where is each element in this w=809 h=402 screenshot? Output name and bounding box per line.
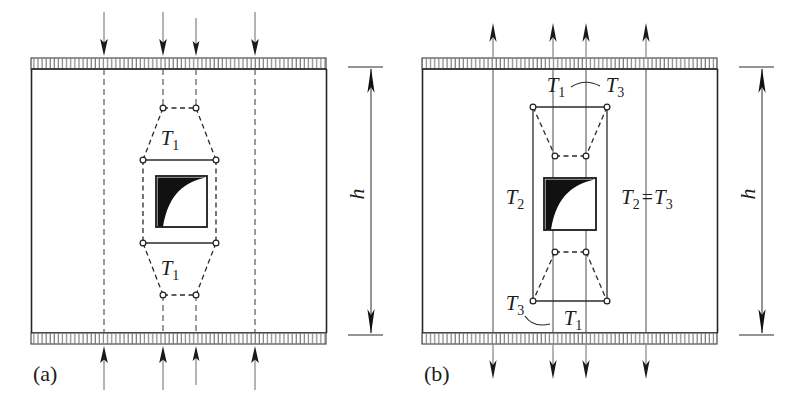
- svg-text:T1: T1: [161, 126, 180, 153]
- load-arrow-bottom-4: [251, 346, 259, 390]
- tie-label-subscript: 2: [517, 197, 524, 212]
- load-arrow-bottom-2: [549, 345, 556, 379]
- tie-label-subscript: 1: [575, 318, 582, 333]
- load-arrow-bottom-3: [582, 345, 589, 379]
- load-arrow-bottom-1: [100, 346, 108, 390]
- figure-container: T1 T1 h (a): [0, 0, 809, 402]
- dimension-h-b: h: [735, 67, 774, 335]
- tie-label-T2-equals-T3-b: T2=T3: [621, 185, 673, 212]
- tie-label-T3-top-b: T3: [606, 73, 625, 100]
- bearing-band-bottom-b: [422, 333, 717, 344]
- tie-label-T1-top-b: T1: [547, 73, 566, 100]
- load-arrow-top-3: [193, 18, 200, 56]
- tie-label-T3-bottom-b: T3: [506, 291, 525, 318]
- tie-label-subscript: 3: [517, 303, 524, 318]
- tie-connector-arc-bottom: [525, 316, 550, 325]
- load-arrow-top-2: [549, 23, 556, 57]
- equals-sign: =: [642, 186, 653, 208]
- load-arrow-top-3: [582, 23, 589, 57]
- panel-caption-b: (b): [424, 361, 450, 386]
- tie-label-subscript: 3: [617, 85, 624, 100]
- load-arrows-top-b: [489, 23, 649, 57]
- load-arrow-top-1: [489, 23, 496, 57]
- tie-label-T1-upper-a: T1: [161, 126, 180, 153]
- load-arrows-bottom-a: [100, 346, 259, 390]
- tie-label-subscript: 1: [172, 138, 179, 153]
- tie-label-subscript: 1: [558, 85, 565, 100]
- svg-text:T2: T2: [506, 185, 525, 212]
- svg-text:T1: T1: [161, 256, 180, 283]
- central-opening-b: [544, 178, 596, 230]
- load-arrow-bottom-3: [193, 346, 200, 385]
- svg-text:T1: T1: [564, 306, 583, 333]
- load-arrow-top-2: [159, 12, 167, 56]
- bearing-band-top-a: [31, 58, 326, 69]
- central-opening-a: [156, 176, 207, 227]
- load-arrow-top-4: [251, 12, 259, 56]
- panel-b-tension: T1 T3 T2 T2=T3 T3 T1 h: [405, 0, 809, 402]
- svg-text:T3: T3: [606, 73, 625, 100]
- load-arrow-bottom-4: [642, 345, 649, 379]
- strut-fan-upper-b: [533, 107, 607, 156]
- load-arrow-top-1: [100, 12, 108, 56]
- load-arrows-top-a: [100, 12, 259, 56]
- strut-fan-lower-b: [533, 252, 607, 301]
- bearing-band-bottom-a: [31, 333, 326, 344]
- load-arrows-bottom-b: [489, 345, 649, 379]
- tie-label-T2-left-b: T2: [506, 185, 525, 212]
- svg-text:T3: T3: [506, 291, 525, 318]
- dimension-h-a: h: [344, 67, 383, 335]
- tie-label-subscript: 1: [172, 268, 179, 283]
- panel-a-compression: T1 T1 h (a): [0, 0, 405, 402]
- bearing-band-top-b: [422, 58, 717, 69]
- svg-text:T1: T1: [547, 73, 566, 100]
- tie-label-T1-bottom-b: T1: [564, 306, 583, 333]
- svg-text:T2=T3: T2=T3: [621, 185, 673, 212]
- panel-caption-a: (a): [33, 361, 57, 386]
- tie-label-subscript-2: 3: [666, 197, 673, 212]
- load-arrow-top-4: [642, 23, 649, 57]
- dimension-label-h: h: [735, 189, 760, 200]
- dimension-label-h: h: [344, 189, 369, 200]
- tie-label-subscript: 2: [633, 197, 640, 212]
- tie-label-T1-lower-a: T1: [161, 256, 180, 283]
- load-arrow-bottom-2: [159, 346, 167, 390]
- load-arrow-bottom-1: [489, 345, 496, 379]
